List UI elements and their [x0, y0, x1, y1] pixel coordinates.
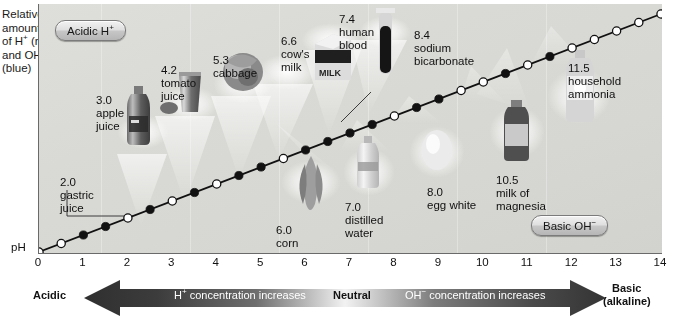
ph-marker-6.5: [324, 137, 332, 145]
arrow-label-neutral: Neutral: [333, 289, 371, 301]
label-cabbage: 5.3 cabbage: [213, 54, 257, 80]
ph-marker-5.5: [279, 154, 287, 162]
ph-marker-3.5: [190, 188, 198, 196]
x-tick-12: 12: [556, 256, 586, 268]
x-tick-1: 1: [67, 256, 97, 268]
ph-marker-10: [479, 78, 487, 86]
ph-axis-label: pH: [11, 241, 26, 253]
ph-marker-4: [213, 180, 221, 188]
arrow-label-basic: Basic: [612, 282, 641, 294]
x-tick-9: 9: [423, 256, 453, 268]
ph-marker-1: [79, 231, 87, 239]
label-cows-milk: 6.6 cow's milk: [281, 35, 309, 75]
ph-marker-8.5: [413, 103, 421, 111]
label-household-ammonia: 11.5 household ammonia: [568, 62, 621, 102]
ph-marker-2.5: [146, 205, 154, 213]
label-distilled-water: 7.0 distilled water: [345, 201, 383, 241]
x-tick-8: 8: [378, 256, 408, 268]
arrow-label-alkaline: (alkaline): [603, 295, 651, 307]
ph-marker-1.5: [102, 222, 110, 230]
x-tick-7: 7: [334, 256, 364, 268]
x-tick-3: 3: [156, 256, 186, 268]
x-tick-11: 11: [512, 256, 542, 268]
ph-marker-2: [124, 214, 132, 222]
label-milk-of-magnesia: 10.5 milk of magnesia: [496, 174, 546, 214]
ph-marker-14: [657, 10, 662, 18]
x-tick-14: 14: [645, 256, 674, 268]
ph-marker-11.5: [546, 52, 554, 60]
x-tick-2: 2: [112, 256, 142, 268]
svg-text:MILK: MILK: [319, 68, 341, 78]
ph-marker-7.5: [368, 120, 376, 128]
x-tick-5: 5: [245, 256, 275, 268]
ph-marker-0.5: [57, 239, 65, 247]
x-tick-0: 0: [23, 256, 53, 268]
label-egg-white: 8.0 egg white: [427, 186, 476, 212]
ph-marker-8: [390, 112, 398, 120]
label-tomato-juice: 4.2 tomato juice: [161, 64, 196, 104]
ph-marker-13.5: [635, 18, 643, 26]
basic-pill-label: Basic OH−: [543, 220, 596, 232]
x-tick-10: 10: [467, 256, 497, 268]
acidic-pill[interactable]: Acidic H+: [55, 20, 126, 41]
apple-juice-photo: [127, 86, 150, 145]
ph-scale-figure: Relative amounts of H+ (red) and OH − (b…: [0, 0, 674, 330]
ph-marker-11: [524, 61, 532, 69]
ph-marker-12.5: [590, 35, 598, 43]
ph-marker-10.5: [501, 69, 509, 77]
x-tick-4: 4: [201, 256, 231, 268]
ph-marker-7: [346, 129, 354, 137]
ph-marker-4.5: [235, 171, 243, 179]
ph-marker-13: [613, 27, 621, 35]
concentration-arrow-bar: Acidic H+ concentration increases Neutra…: [0, 278, 674, 318]
arrow-label-h-plus: H+ concentration increases: [174, 289, 306, 301]
ph-marker-0: [39, 248, 43, 254]
ph-marker-12: [568, 44, 576, 52]
label-corn: 6.0 corn: [276, 224, 298, 250]
arrow-label-oh-minus: OH− concentration increases: [405, 289, 545, 301]
x-axis-ticks: 01234567891011121314: [0, 256, 674, 272]
ph-marker-9.5: [457, 86, 465, 94]
label-gastric-juice: 2.0 gastric juice: [60, 176, 94, 216]
label-sodium-bicarbonate: 8.4 sodium bicarbonate: [414, 29, 474, 69]
arrow-label-acidic: Acidic: [33, 289, 66, 301]
ph-marker-5: [257, 163, 265, 171]
ph-marker-6: [302, 146, 310, 154]
x-tick-6: 6: [290, 256, 320, 268]
acidic-pill-label: Acidic H+: [67, 25, 114, 37]
label-apple-juice: 3.0 apple juice: [96, 94, 124, 134]
label-human-blood: 7.4 human blood: [339, 13, 374, 53]
x-tick-13: 13: [601, 256, 631, 268]
basic-pill[interactable]: Basic OH−: [531, 215, 608, 236]
ph-marker-9: [435, 95, 443, 103]
milk-of-magnesia-photo: [504, 100, 529, 161]
egg-white-photo: [422, 130, 452, 170]
ph-marker-3: [168, 197, 176, 205]
